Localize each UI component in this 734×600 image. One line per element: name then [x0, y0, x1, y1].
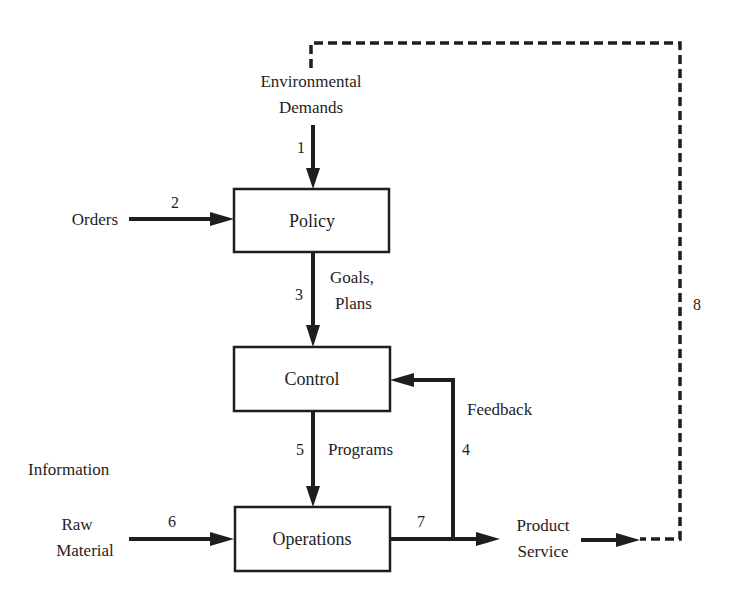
operations-box-label: Operations [273, 529, 352, 549]
product-label-line1: Product [517, 516, 570, 535]
operations-box: Operations [235, 507, 390, 571]
raw-material-line1: Raw [61, 515, 93, 534]
programs-label: Programs [328, 440, 393, 459]
arrow-7 [390, 532, 500, 546]
arrow-3 [306, 252, 320, 347]
goals-plans-line1: Goals, [330, 268, 374, 287]
flow-number-6: 6 [168, 513, 176, 530]
policy-box: Policy [234, 189, 389, 252]
control-box: Control [234, 347, 390, 411]
environmental-label-line2: Demands [279, 98, 343, 117]
information-label: Information [28, 460, 110, 479]
product-output-arrow [581, 533, 640, 547]
flow-number-3: 3 [295, 286, 303, 303]
goals-plans-line2: Plans [335, 294, 372, 313]
dashed-loop-8 [311, 43, 680, 539]
arrow-6 [129, 532, 234, 546]
orders-label: Orders [72, 210, 118, 229]
policy-box-label: Policy [289, 211, 335, 231]
flow-number-7: 7 [417, 513, 425, 530]
feedback-label: Feedback [467, 400, 533, 419]
flow-number-2: 2 [171, 194, 179, 211]
service-label-line2: Service [518, 542, 569, 561]
flow-number-4: 4 [462, 441, 470, 458]
flow-number-1: 1 [297, 139, 305, 156]
raw-material-line2: Material [56, 541, 114, 560]
flow-number-5: 5 [296, 441, 304, 458]
arrow-5 [306, 411, 320, 507]
organization-system-diagram: 8 Environmental Demands 1 Policy Orders … [0, 0, 734, 600]
control-box-label: Control [284, 369, 339, 389]
arrow-1 [306, 125, 320, 189]
arrow-2 [129, 212, 234, 226]
environmental-label-line1: Environmental [260, 72, 361, 91]
flow-number-8: 8 [693, 296, 701, 313]
